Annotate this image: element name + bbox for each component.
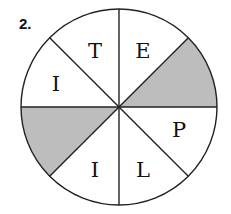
- segment-label-t: T: [88, 39, 102, 63]
- segment-label-i-lower: I: [91, 158, 99, 182]
- segment-label-l: L: [136, 158, 150, 182]
- segment-label-p: P: [172, 118, 186, 142]
- spinner-diagram: T E I P I L: [0, 0, 231, 214]
- segment-label-e: E: [135, 39, 150, 63]
- segment-label-i-upper: I: [52, 72, 60, 96]
